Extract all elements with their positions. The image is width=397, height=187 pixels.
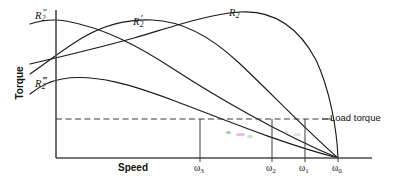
tick-subscript: 0 — [338, 167, 342, 175]
curve-R2 — [30, 12, 338, 158]
curve-label-R2-prime: R2′ — [133, 14, 143, 29]
curve-label-base: R — [229, 7, 235, 18]
tick-subscript: 2 — [272, 167, 276, 175]
curve-R2-triple-prime — [30, 78, 338, 158]
y-axis-title: Torque — [15, 53, 25, 113]
x-axis-title: Speed — [118, 163, 148, 173]
curve-label-prime: ″ — [43, 7, 47, 18]
curve-label-R2-triple-prime: R2‴ — [35, 76, 47, 91]
curve-label-base: R — [133, 16, 139, 27]
curve-label-base: R — [35, 78, 41, 89]
curve-label-base: R — [35, 10, 41, 21]
tick-label-omega2: ω2 — [266, 164, 276, 175]
tick-subscript: 1 — [305, 167, 309, 175]
curve-label-R2-double-prime: R2″ — [35, 8, 47, 23]
tick-label-omega0: ω0 — [332, 164, 342, 175]
plot-canvas — [0, 0, 397, 187]
tick-label-omega3: ω3 — [194, 164, 204, 175]
load-torque-label: Load torque — [330, 113, 381, 123]
curve-R2-double-prime — [30, 20, 338, 158]
torque-speed-figure: R2″ R2‴ R2′ R2 Torque Speed ω3 ω2 ω1 ω0 … — [0, 0, 397, 187]
curve-label-R2: R2 — [229, 5, 237, 20]
tick-subscript: 3 — [200, 167, 204, 175]
curve-label-subscript: 2 — [236, 11, 240, 20]
curve-label-prime: ′ — [141, 13, 143, 24]
tick-label-omega1: ω1 — [299, 164, 309, 175]
curve-label-prime: ‴ — [43, 75, 47, 86]
